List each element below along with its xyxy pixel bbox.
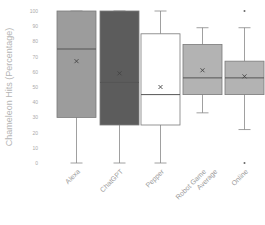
box-alexa: [57, 11, 96, 163]
iqr-box: [183, 44, 222, 94]
y-tick-label: 20: [32, 130, 38, 136]
y-tick-label: 80: [32, 38, 38, 44]
iqr-box: [57, 11, 96, 117]
box-plot-chart: Chameleon Hits (Percentage) 100908070605…: [0, 0, 265, 225]
box-online: [225, 10, 264, 164]
iqr-box: [100, 11, 139, 125]
x-category-label: Alexa: [64, 168, 81, 185]
x-category-label: ChatGPT: [99, 167, 125, 193]
x-category-label: Pepper: [144, 167, 166, 189]
y-tick-label: 50: [32, 84, 38, 90]
x-axis-labels: AlexaChatGPTPepperRobot GameAverageOnlin…: [64, 162, 249, 207]
iqr-box: [141, 34, 180, 125]
y-tick-label: 30: [32, 114, 38, 120]
y-tick-label: 90: [32, 23, 38, 29]
y-axis-ticks: 1009080706050403020100: [30, 8, 39, 166]
y-axis-title: Chameleon Hits (Percentage): [4, 28, 14, 147]
y-tick-label: 60: [32, 69, 38, 75]
y-tick-label: 0: [35, 160, 38, 166]
y-tick-label: 70: [32, 54, 38, 60]
box-group: [57, 10, 264, 164]
outlier-point: [244, 162, 246, 164]
x-category-label: Robot GameAverage: [174, 162, 219, 207]
x-category-label: Online: [230, 168, 249, 187]
y-tick-label: 40: [32, 99, 38, 105]
y-tick-label: 100: [30, 8, 39, 14]
outlier-point: [244, 10, 246, 12]
box-pepper: [141, 11, 180, 163]
box-robot-game-average: [183, 28, 222, 113]
y-tick-label: 10: [32, 145, 38, 151]
box-chatgpt: [100, 11, 139, 163]
